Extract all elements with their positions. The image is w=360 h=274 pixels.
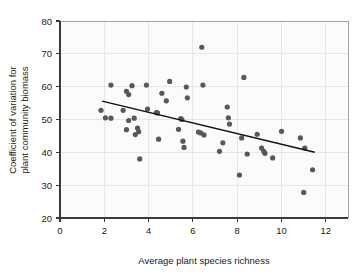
y-tick-label: 80 xyxy=(41,16,52,27)
data-point xyxy=(225,104,230,109)
data-point xyxy=(227,121,232,126)
y-tick-label: 50 xyxy=(41,114,52,125)
data-point xyxy=(298,135,303,140)
data-point xyxy=(137,156,142,161)
data-point xyxy=(239,135,244,140)
data-point xyxy=(121,108,126,113)
data-point xyxy=(132,116,137,121)
data-point xyxy=(185,95,190,100)
data-point xyxy=(136,129,141,134)
x-axis-tick-labels: 024681012 xyxy=(57,225,331,236)
data-point xyxy=(108,82,113,87)
chart-canvas: 024681012 20304050607080 Average plant s… xyxy=(0,0,360,274)
data-point xyxy=(126,118,131,123)
y-tick-label: 40 xyxy=(41,147,52,158)
data-point xyxy=(241,75,246,80)
data-point xyxy=(103,115,108,120)
y-tick-label: 60 xyxy=(41,81,52,92)
data-point xyxy=(156,137,161,142)
data-point xyxy=(310,167,315,172)
x-axis-title: Average plant species richness xyxy=(138,255,270,266)
data-point xyxy=(164,98,169,103)
data-point xyxy=(126,92,131,97)
data-point xyxy=(217,149,222,154)
data-point xyxy=(159,91,164,96)
y-axis-title-line1: Coefficient of variation for xyxy=(7,66,18,174)
x-tick-label: 2 xyxy=(102,225,107,236)
data-point xyxy=(201,132,206,137)
data-point xyxy=(270,155,275,160)
data-point xyxy=(279,129,284,134)
data-point xyxy=(220,140,225,145)
x-tick-label: 0 xyxy=(57,225,62,236)
x-tick-label: 10 xyxy=(276,225,287,236)
y-axis-title-line2: plant community biomass xyxy=(19,66,30,173)
y-axis-tick-labels: 20304050607080 xyxy=(41,16,52,224)
x-tick-label: 8 xyxy=(235,225,240,236)
data-point xyxy=(108,116,113,121)
data-point xyxy=(176,127,181,132)
x-tick-label: 12 xyxy=(321,225,332,236)
data-point xyxy=(145,106,150,111)
y-tick-label: 20 xyxy=(41,213,52,224)
data-point xyxy=(255,132,260,137)
data-point xyxy=(301,190,306,195)
data-point xyxy=(98,108,103,113)
data-point xyxy=(184,84,189,89)
y-tick-label: 70 xyxy=(41,48,52,59)
data-point xyxy=(180,139,185,144)
data-point xyxy=(181,145,186,150)
data-point xyxy=(144,82,149,87)
x-tick-label: 6 xyxy=(190,225,195,236)
data-point xyxy=(129,83,134,88)
x-tick-label: 4 xyxy=(146,225,151,236)
scatter-plot-figure: 024681012 20304050607080 Average plant s… xyxy=(0,0,360,274)
data-point xyxy=(245,151,250,156)
y-tick-label: 30 xyxy=(41,180,52,191)
data-point xyxy=(237,172,242,177)
data-point xyxy=(199,45,204,50)
data-point xyxy=(124,127,129,132)
data-point xyxy=(200,82,205,87)
data-point xyxy=(167,79,172,84)
data-point xyxy=(262,151,267,156)
data-point xyxy=(226,115,231,120)
